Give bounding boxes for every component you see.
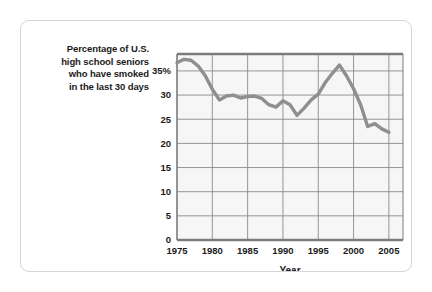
x-tick-label-1975: 1975 bbox=[166, 245, 188, 256]
x-axis-title: Year bbox=[279, 265, 300, 271]
y-tick-label-35%: 35% bbox=[152, 65, 172, 76]
chart-svg: 05101520253035% 197519801985199019952000… bbox=[129, 27, 409, 271]
y-tick-label-5: 5 bbox=[166, 210, 172, 221]
x-tick-label-2005: 2005 bbox=[378, 245, 400, 256]
y-tick-label-25: 25 bbox=[160, 114, 171, 125]
y-axis-tick-labels: 05101520253035% bbox=[152, 65, 172, 245]
figure-card: Percentage of U.S. high school seniors w… bbox=[20, 20, 412, 272]
x-axis-tick-labels: 1975198019851990199520002005 bbox=[166, 245, 400, 256]
x-tick-label-1985: 1985 bbox=[237, 245, 259, 256]
x-tick-label-2000: 2000 bbox=[343, 245, 364, 256]
line-chart: 05101520253035% 197519801985199019952000… bbox=[129, 27, 409, 271]
y-tick-label-10: 10 bbox=[160, 186, 171, 197]
x-tick-label-1995: 1995 bbox=[308, 245, 330, 256]
y-tick-label-0: 0 bbox=[166, 234, 171, 245]
plot-background-group bbox=[177, 54, 403, 240]
x-tick-label-1980: 1980 bbox=[202, 245, 223, 256]
y-tick-label-20: 20 bbox=[160, 138, 171, 149]
x-tick-label-1990: 1990 bbox=[272, 245, 293, 256]
y-tick-label-30: 30 bbox=[160, 89, 171, 100]
plot-area-background bbox=[177, 54, 403, 240]
y-tick-label-15: 15 bbox=[160, 162, 171, 173]
